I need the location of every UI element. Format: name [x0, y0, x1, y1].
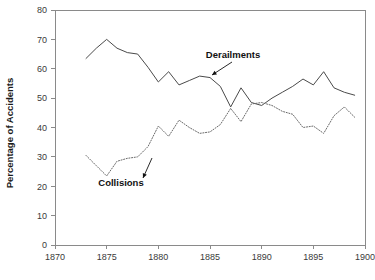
x-axis-ticks: 1870187518801885189018951900 — [45, 245, 375, 262]
annotation-label: Derailments — [206, 49, 260, 60]
y-axis-title: Percentage of Accidents — [4, 78, 15, 189]
y-tick-label: 60 — [37, 64, 47, 74]
y-tick-label: 70 — [37, 35, 47, 45]
chart-annotations: DerailmentsCollisions — [98, 49, 260, 188]
annotation-arrow-head — [212, 71, 217, 75]
series-line-collisions — [86, 103, 355, 176]
annotation-collisions: Collisions — [98, 158, 152, 188]
y-tick-label: 50 — [37, 93, 47, 103]
x-tick-label: 1875 — [97, 252, 117, 262]
x-tick-label: 1890 — [252, 252, 272, 262]
x-tick-label: 1885 — [200, 252, 220, 262]
annotation-label: Collisions — [98, 177, 143, 188]
y-tick-label: 20 — [37, 182, 47, 192]
y-tick-label: 30 — [37, 152, 47, 162]
y-axis-ticks: 01020304050607080 — [37, 5, 55, 250]
x-tick-label: 1870 — [45, 252, 65, 262]
y-tick-label: 40 — [37, 123, 47, 133]
annotation-derailments: Derailments — [206, 49, 260, 75]
x-tick-label: 1900 — [355, 252, 375, 262]
y-tick-label: 0 — [42, 240, 47, 250]
chart-container: Percentage of Accidents 0102030405060708… — [0, 0, 375, 280]
accidents-line-chart: Percentage of Accidents 0102030405060708… — [0, 0, 375, 280]
y-axis-title-group: Percentage of Accidents — [4, 78, 15, 189]
x-tick-label: 1895 — [303, 252, 323, 262]
x-tick-label: 1880 — [148, 252, 168, 262]
y-tick-label: 80 — [37, 5, 47, 15]
y-tick-label: 10 — [37, 211, 47, 221]
